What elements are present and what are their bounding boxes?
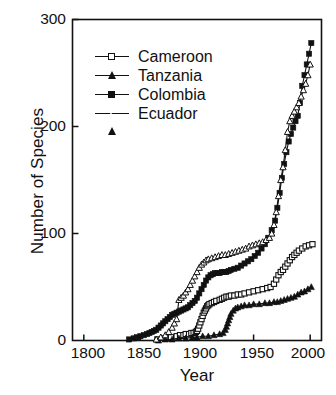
legend-key-open-square-icon [95,51,129,63]
legend: Cameroon Tanzania Colombia Ecuador [95,48,213,124]
legend-label: Cameroon [138,49,213,65]
legend-key-filled-square-icon [95,89,129,101]
legend-item-cameroon[interactable]: Cameroon [95,48,213,65]
legend-key-filled-triangle-icon [95,70,129,82]
series-cameroon [155,242,315,342]
legend-label: Ecuador [138,106,198,122]
legend-label: Colombia [138,87,206,103]
legend-item-ecuador[interactable]: Ecuador [95,105,213,122]
legend-item-tanzania[interactable]: Tanzania [95,67,213,84]
y-axis-ticks [73,20,79,234]
legend-key-open-triangle-icon [95,108,129,120]
legend-label: Tanzania [138,68,202,84]
figure: Number of Species 300 200 100 0 1800 185… [0,0,336,395]
legend-item-colombia[interactable]: Colombia [95,86,213,103]
